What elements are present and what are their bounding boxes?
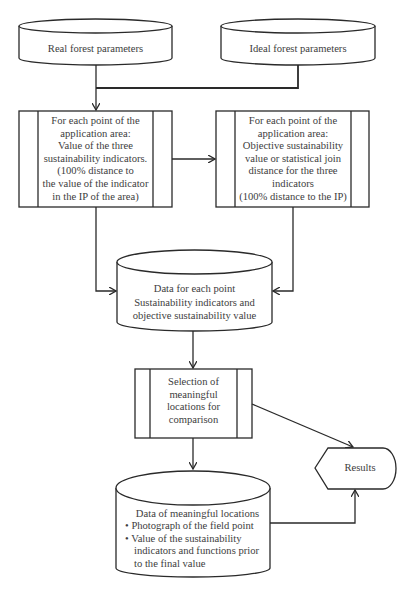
bullet-text: Value of the sustainability (131, 533, 241, 544)
label-line: Selection of (150, 376, 237, 389)
label-point-data: Data for each point Sustainability indic… (117, 282, 272, 323)
label-line: application area: (38, 128, 153, 141)
bullet-marker: • (125, 533, 129, 544)
label-text: Real forest parameters (19, 43, 172, 56)
label-selection: Selection of meaningful locations for co… (150, 376, 237, 426)
label-line: value or statistical join (235, 153, 351, 166)
bullet-continuation: to the final value (134, 558, 270, 570)
label-indicator-values: For each point of the application area: … (38, 115, 153, 203)
label-real-forest-parameters: Real forest parameters (19, 43, 172, 56)
label-meaningful-data: Data of meaningful locations • Photograp… (125, 508, 270, 570)
label-line: indicators (235, 178, 351, 191)
label-line: Objective sustainability (235, 140, 351, 153)
label-line: (100% distance to the IP) (235, 191, 351, 204)
label-line: sustainability indicators. (38, 153, 153, 166)
bullet-text: Photograph of the field point (131, 520, 253, 531)
cylinder-ideal-forest-parameters (221, 19, 375, 65)
label-title: Data of meaningful locations (125, 508, 270, 520)
bullet-item: • Photograph of the field point (125, 520, 270, 532)
connector-params-merge (96, 65, 298, 110)
cylinder-real-forest-parameters (19, 19, 172, 65)
bullet-item: • Value of the sustainability indicators… (125, 533, 270, 570)
label-line: in the IP of the area) (38, 191, 153, 204)
label-text: Results (330, 462, 390, 475)
label-objective-value: For each point of the application area: … (235, 115, 351, 203)
label-line: the value of the indicator (38, 178, 153, 191)
label-line: For each point of the (235, 115, 351, 128)
connector-objective-to-pointdata (273, 207, 293, 291)
connector-selection-to-results (252, 404, 353, 447)
bullet-continuation: indicators and functions prior (134, 545, 270, 557)
label-line: distance for the three (235, 165, 351, 178)
label-line: meaningful (150, 389, 237, 402)
label-line: Sustainability indicators and (117, 296, 272, 310)
label-line: comparison (150, 414, 237, 427)
bullet-marker: • (125, 520, 129, 531)
connector-meaningful-data-to-results (270, 490, 355, 523)
label-line: (100% distance to (38, 165, 153, 178)
label-line: locations for (150, 401, 237, 414)
label-line: For each point of the (38, 115, 153, 128)
label-line: Value of the three (38, 140, 153, 153)
label-line: application area: (235, 128, 351, 141)
label-line: objective sustainability value (117, 309, 272, 323)
label-ideal-forest-parameters: Ideal forest parameters (221, 43, 375, 56)
label-text: Ideal forest parameters (221, 43, 375, 56)
label-results: Results (330, 462, 390, 475)
label-line: Data for each point (117, 282, 272, 296)
connector-indicators-to-pointdata (96, 207, 116, 291)
